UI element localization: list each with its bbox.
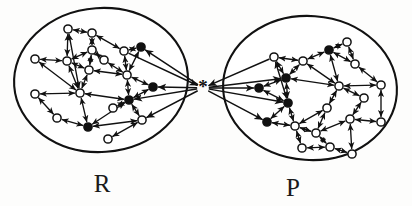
node-r-r11-open[interactable]	[31, 90, 39, 98]
cluster-label-P: P	[286, 174, 300, 201]
node-p-p6-filled[interactable]	[282, 74, 290, 82]
node-p-p5-open[interactable]	[351, 60, 359, 68]
node-r-r4-open[interactable]	[63, 57, 71, 65]
node-p-p2-open[interactable]	[299, 57, 307, 65]
node-r-r6-open[interactable]	[120, 47, 128, 55]
node-p-p18-open[interactable]	[348, 150, 356, 158]
node-r-r16-open[interactable]	[104, 135, 112, 143]
node-p-p9-open[interactable]	[377, 81, 385, 89]
node-r-r13-filled[interactable]	[125, 96, 133, 104]
node-r-r17-open[interactable]	[138, 116, 146, 124]
node-p-p14-open[interactable]	[346, 115, 354, 123]
edge-r-r1-r4	[67, 34, 68, 55]
node-p-p20-open[interactable]	[360, 94, 368, 102]
node-r-r7-filled[interactable]	[137, 43, 145, 51]
node-r-r14-open[interactable]	[53, 114, 61, 122]
node-r-r3-open[interactable]	[31, 55, 39, 63]
edge-r-r11-r12	[40, 93, 74, 94]
node-p-p12-filled[interactable]	[263, 118, 271, 126]
node-r-r8-open[interactable]	[85, 66, 93, 74]
node-r-r19-open[interactable]	[100, 56, 108, 64]
hub-asterisk-icon: *	[198, 76, 208, 97]
cluster-label-R: R	[94, 170, 111, 197]
node-p-p7-filled[interactable]	[255, 84, 263, 92]
figure-container: * RP	[0, 0, 412, 206]
node-p-p16-open[interactable]	[298, 144, 306, 152]
node-p-p15-open[interactable]	[377, 118, 385, 126]
cluster-outline-R	[9, 2, 193, 158]
network-diagram: * RP	[0, 0, 412, 206]
node-r-r1-open[interactable]	[64, 25, 72, 33]
node-p-p19-open[interactable]	[312, 129, 320, 137]
node-p-p10-filled[interactable]	[284, 99, 292, 107]
cluster-label-layer: RP	[94, 170, 300, 201]
edge-p-p8-p9	[344, 85, 375, 86]
node-p-p11-open[interactable]	[323, 104, 331, 112]
edge-p-p16-p17	[307, 147, 324, 148]
node-r-r12-open[interactable]	[76, 89, 84, 97]
node-r-r18-open[interactable]	[109, 104, 117, 112]
node-p-p17-open[interactable]	[326, 143, 334, 151]
node-p-p8-open[interactable]	[335, 82, 343, 90]
node-p-p1-open[interactable]	[270, 53, 278, 61]
node-p-p3-filled[interactable]	[325, 46, 333, 54]
node-r-r10-filled[interactable]	[149, 83, 157, 91]
node-p-p4-open[interactable]	[343, 38, 351, 46]
hub-edge-r-r10	[158, 87, 196, 88]
hub-layer: *	[198, 76, 208, 97]
node-r-r9-open[interactable]	[123, 71, 131, 79]
node-r-r2-open[interactable]	[88, 29, 96, 37]
node-p-p13-open[interactable]	[291, 122, 299, 130]
node-r-r5-open[interactable]	[88, 46, 96, 54]
node-r-r15-filled[interactable]	[84, 123, 92, 131]
